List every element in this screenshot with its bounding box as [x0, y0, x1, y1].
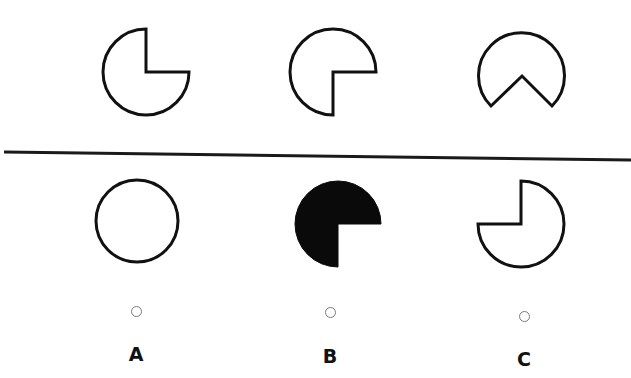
divider-line — [4, 152, 631, 160]
sequence-shape-1 — [103, 29, 189, 115]
option-c-shape[interactable] — [478, 181, 564, 267]
option-b-radio[interactable] — [325, 307, 336, 318]
sequence-shape-3 — [479, 33, 565, 106]
option-b-shape[interactable] — [295, 181, 381, 267]
option-a-shape[interactable] — [96, 180, 178, 262]
puzzle-canvas — [0, 0, 631, 378]
option-c-radio[interactable] — [519, 311, 530, 322]
option-a-label: A — [129, 345, 144, 364]
option-a-radio[interactable] — [131, 306, 142, 317]
sequence-shape-2 — [290, 29, 376, 115]
option-b-label: B — [323, 347, 337, 366]
option-c-label: C — [517, 350, 531, 369]
